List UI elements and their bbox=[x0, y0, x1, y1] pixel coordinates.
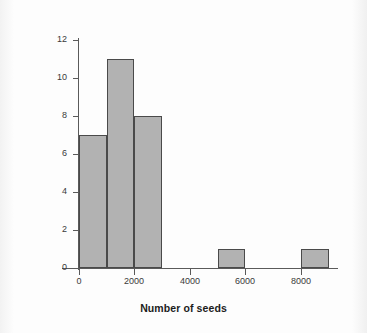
x-tick-label: 0 bbox=[59, 277, 99, 286]
histogram-figure: 024681012 02000400060008000 Frequency Nu… bbox=[0, 0, 367, 333]
x-tick-mark bbox=[301, 269, 302, 275]
histogram-bar bbox=[301, 249, 329, 268]
x-axis-title: Number of seeds bbox=[0, 302, 367, 314]
x-tick-label: 2000 bbox=[114, 277, 154, 286]
x-tick-label: 8000 bbox=[281, 277, 321, 286]
x-tick-label: 6000 bbox=[225, 277, 265, 286]
y-tick-label: 4 bbox=[41, 187, 67, 196]
histogram-bar bbox=[107, 59, 135, 268]
histogram-bar bbox=[218, 249, 246, 268]
histogram-bar bbox=[79, 135, 107, 268]
y-tick-label: 8 bbox=[41, 111, 67, 120]
histogram-bar bbox=[134, 116, 162, 268]
x-tick-mark bbox=[190, 269, 191, 275]
y-tick-label: 0 bbox=[41, 263, 67, 272]
y-tick-label: 10 bbox=[41, 73, 67, 82]
plot-area bbox=[79, 40, 337, 268]
x-tick-mark bbox=[245, 269, 246, 275]
x-axis-line bbox=[62, 268, 338, 269]
x-tick-mark bbox=[134, 269, 135, 275]
y-tick-label: 6 bbox=[41, 149, 67, 158]
y-tick-label: 12 bbox=[41, 35, 67, 44]
y-tick-label: 2 bbox=[41, 225, 67, 234]
x-tick-mark bbox=[79, 269, 80, 275]
x-tick-label: 4000 bbox=[170, 277, 210, 286]
